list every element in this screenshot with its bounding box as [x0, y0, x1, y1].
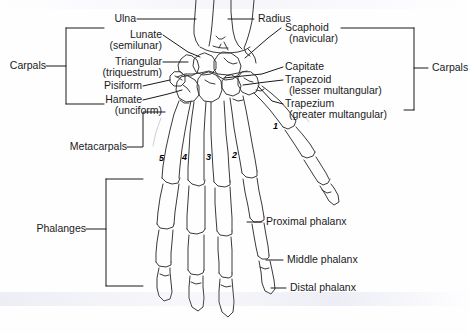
label-phalanges: Phalanges	[16, 223, 86, 235]
leader-lunate	[163, 35, 200, 57]
label-trapezium-alt: (greater multangular)	[289, 109, 387, 121]
label-ulna: Ulna	[56, 13, 136, 25]
soft-tissue-hint-ulnar	[153, 118, 161, 146]
leader-pisiform	[143, 80, 170, 86]
leader-hamate	[143, 90, 182, 100]
leader-scaphoid	[245, 28, 281, 58]
metacarpal-number-1: 1	[273, 121, 278, 131]
metacarpal-3	[211, 101, 230, 187]
scan-artifact-bottom	[0, 292, 469, 306]
leader-capitate	[224, 67, 283, 78]
metacarpal-number-2: 2	[232, 150, 237, 160]
metacarpal-number-3: 3	[206, 152, 211, 162]
trapezium-detail	[244, 78, 253, 82]
label-proximal-phalanx: Proximal phalanx	[266, 216, 347, 228]
metacarpal-number-4: 4	[182, 152, 187, 162]
label-carpals-right: Carpals	[432, 62, 468, 74]
radius-styloid-detail	[219, 42, 228, 50]
ulna-bone	[194, 0, 214, 46]
label-pisiform: Pisiform	[28, 80, 142, 92]
label-carpals-left: Carpals	[2, 60, 46, 72]
label-lunate-alt: (semilunar)	[28, 40, 162, 52]
metacarpal-5	[162, 100, 191, 184]
hamate-hook-line	[183, 85, 190, 92]
leader-metacarpals	[127, 112, 165, 147]
capitate-detail	[205, 80, 215, 84]
finger-5-phalanges	[156, 184, 179, 301]
scaphoid-tubercle-line	[224, 58, 237, 64]
finger-2-phalanges	[243, 178, 275, 294]
label-hamate-alt: (unciform)	[28, 105, 162, 117]
metacarpal-4	[188, 102, 206, 186]
label-capitate: Capitate	[285, 61, 324, 73]
pisiform-bone	[170, 72, 185, 86]
label-trapezoid-alt: (lesser multangular)	[289, 85, 382, 97]
label-triangular-alt: (triquestrum)	[28, 67, 162, 79]
metacarpal-number-5: 5	[159, 153, 164, 163]
forearm-interosseous-detail	[216, 36, 225, 39]
metacarpal-2	[230, 96, 257, 178]
label-scaphoid-alt: (navicular)	[289, 33, 338, 45]
label-middle-phalanx: Middle phalanx	[287, 254, 358, 266]
label-metacarpals: Metacarpals	[42, 141, 127, 153]
anatomy-figure-hand-bones: Ulna Radius Lunate (semilunar) Triangula…	[0, 0, 469, 334]
finger-1-phalanges	[285, 127, 339, 205]
